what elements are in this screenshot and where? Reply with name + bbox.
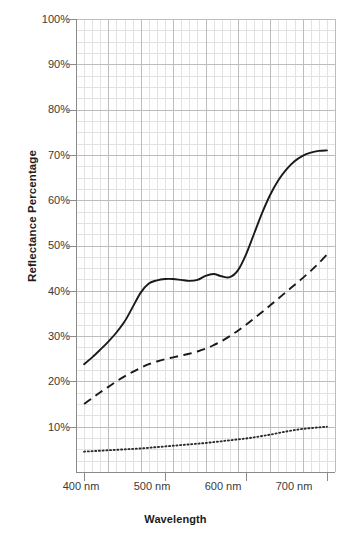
chart-figure: Reflectance Percentage Wavelength 100% 9…: [0, 0, 351, 542]
curve-dotted-curve: [84, 427, 327, 452]
plot-canvas: [0, 0, 351, 542]
grid-minor: [76, 19, 335, 472]
data-curves: [84, 150, 327, 451]
